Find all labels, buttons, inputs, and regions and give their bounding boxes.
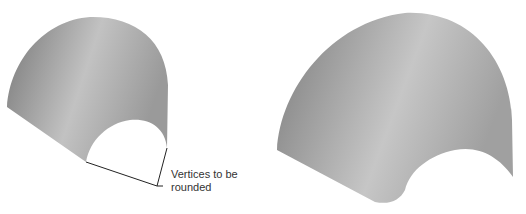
diagram-canvas xyxy=(0,0,526,214)
annotation-line-1: Vertices to be xyxy=(171,168,238,181)
right-surface-shape xyxy=(277,13,513,203)
annotation-label: Vertices to be rounded xyxy=(171,168,238,194)
annotation-line-2: rounded xyxy=(171,181,238,194)
left-surface-shape xyxy=(7,17,168,186)
